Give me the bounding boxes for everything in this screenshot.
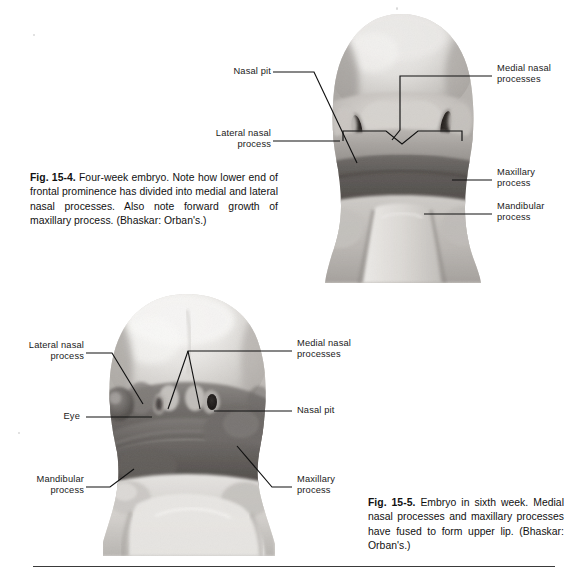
scan-speck [396,7,398,10]
label-mandibular-process: Mandibular process [497,201,577,224]
label-line: process [157,139,271,150]
figure-15-5: Lateral nasal process Eye Mandibular pro… [0,291,579,561]
figure-number: Fig. 15-5. [368,497,415,508]
scan-speck [33,34,35,36]
embryo-photo-sixth-week [95,292,280,557]
label-line: Lateral nasal [157,128,271,139]
label-line: Nasal pit [173,66,271,77]
label-nasal-pit: Nasal pit [173,66,271,77]
label-line: Lateral nasal [0,340,84,351]
label-line: Maxillary [297,474,381,485]
figure-number: Fig. 15-4. [30,172,76,183]
caption-fig-15-4: Fig. 15-4. Four-week embryo. Note how lo… [30,171,278,228]
label-line: Medial nasal [297,338,389,349]
label-line: process [497,178,577,189]
label-maxillary-process: Maxillary process [297,474,381,497]
label-line: Medial nasal [497,63,579,74]
label-line: Eye [0,411,80,422]
figure-15-4: Nasal pit Lateral nasal process Medial n… [0,0,579,291]
label-line: process [0,485,84,496]
label-line: processes [297,349,389,360]
scan-speck [18,432,20,434]
label-line: Maxillary [497,167,577,178]
label-lateral-nasal-process: Lateral nasal process [157,128,271,151]
label-line: Mandibular [497,201,577,212]
label-maxillary-process: Maxillary process [497,167,577,190]
label-line: process [497,212,577,223]
label-line: Mandibular [0,474,84,485]
caption-fig-15-5: Fig. 15-5. Embryo in sixth week. Medial … [368,496,564,553]
label-line: process [0,351,84,362]
label-mandibular-process: Mandibular process [0,474,84,497]
label-medial-nasal-processes: Medial nasal processes [497,63,579,86]
label-lateral-nasal-process: Lateral nasal process [0,340,84,363]
page-canvas: Nasal pit Lateral nasal process Medial n… [0,0,579,582]
embryo-photo-four-week [313,12,493,284]
label-eye: Eye [0,411,80,422]
label-line: Nasal pit [297,405,381,416]
label-medial-nasal-processes: Medial nasal processes [297,338,389,361]
footer-rule [33,566,555,567]
label-nasal-pit: Nasal pit [297,405,381,416]
label-line: processes [497,74,579,85]
